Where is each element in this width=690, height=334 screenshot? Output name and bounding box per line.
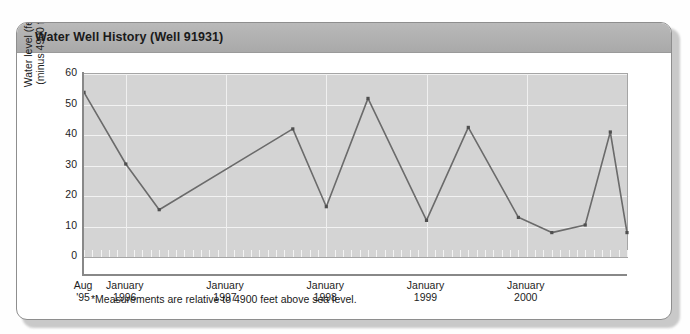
data-point-marker — [584, 223, 587, 226]
y-axis-tick-label: 0 — [51, 249, 77, 261]
series-polyline — [84, 92, 627, 232]
x-axis-tick-label-line1: January — [106, 279, 143, 291]
x-axis-tick-label-line1: January — [307, 279, 344, 291]
data-point-marker — [124, 162, 127, 165]
x-axis-tick-label: Aug'95 — [74, 279, 93, 303]
y-axis-line — [82, 72, 84, 276]
y-axis-tick-label: 60 — [51, 66, 77, 78]
chart-card: Water Well History (Well 91931) Water le… — [16, 22, 672, 320]
x-axis-tick-label: January2000 — [507, 279, 544, 303]
data-point-marker — [291, 127, 294, 130]
x-axis-line — [82, 274, 627, 276]
chart-area: Water level (feet) * (minus 4900 feet) 6… — [17, 53, 671, 320]
y-axis-title-line1: Water level (feet) * — [22, 22, 34, 109]
data-point-marker — [517, 216, 520, 219]
y-axis-tick-label: 50 — [51, 97, 77, 109]
x-axis-tick-label-line2: 2000 — [507, 291, 544, 303]
y-axis-tick-label: 40 — [51, 127, 77, 139]
x-axis-tick-label-line2: 1999 — [407, 291, 444, 303]
y-axis-tick-label: 20 — [51, 188, 77, 200]
data-point-marker — [467, 126, 470, 129]
plot-area — [83, 73, 628, 258]
y-axis-tick-labels: 6050403020100 — [47, 53, 77, 320]
data-point-marker — [625, 231, 628, 234]
series-line-water-level — [84, 74, 627, 257]
x-axis-tick-label-line2: '95 — [74, 291, 93, 303]
y-axis-tick-label: 10 — [51, 219, 77, 231]
data-point-marker — [425, 219, 428, 222]
y-axis-tick-label: 30 — [51, 158, 77, 170]
y-axis-title-line2: (minus 4900 feet) — [34, 22, 46, 109]
data-point-marker — [325, 205, 328, 208]
x-axis-tick-label-line1: January — [507, 279, 544, 291]
x-axis-tick-label: January1999 — [407, 279, 444, 303]
x-axis-tick-label-line1: January — [206, 279, 243, 291]
data-point-marker — [550, 231, 553, 234]
page-title: Water Well History (Well 91931) — [35, 30, 223, 44]
data-point-marker — [158, 208, 161, 211]
chart-footnote: *Measurements are relative to 4900 feet … — [91, 293, 357, 305]
x-axis-tick-label-line1: January — [407, 279, 444, 291]
data-point-marker — [366, 97, 369, 100]
page-root: Water Well History (Well 91931) Water le… — [0, 0, 690, 334]
x-axis-minor-tick — [627, 250, 628, 257]
x-axis-tick-label-line1: Aug — [74, 279, 93, 291]
data-point-marker — [609, 130, 612, 133]
